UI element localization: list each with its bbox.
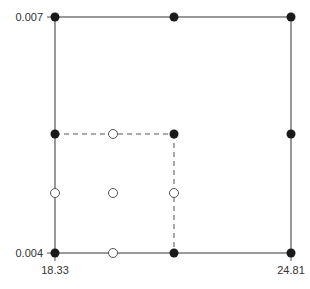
open-point	[109, 130, 118, 139]
open-point	[109, 249, 118, 258]
filled-point	[170, 13, 179, 22]
grid-diagram: 0.007 0.004 18.33 24.81	[0, 0, 310, 289]
open-point	[170, 189, 179, 198]
filled-point	[287, 249, 296, 258]
filled-point	[170, 249, 179, 258]
y-label-top: 0.007	[15, 11, 43, 23]
open-point	[51, 189, 60, 198]
filled-point	[170, 130, 179, 139]
filled-point	[287, 13, 296, 22]
x-label-right: 24.81	[277, 264, 305, 276]
y-label-bottom: 0.004	[15, 247, 43, 259]
filled-point	[51, 249, 60, 258]
filled-point	[51, 130, 60, 139]
points-layer	[51, 13, 296, 258]
open-point	[109, 189, 118, 198]
x-label-left: 18.33	[41, 264, 69, 276]
filled-point	[51, 13, 60, 22]
filled-point	[287, 130, 296, 139]
